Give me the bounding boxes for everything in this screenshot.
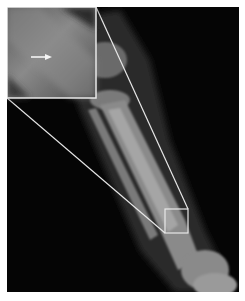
xray-image [7,7,239,292]
magnified-inset [7,7,96,98]
xray-figure [7,7,239,292]
